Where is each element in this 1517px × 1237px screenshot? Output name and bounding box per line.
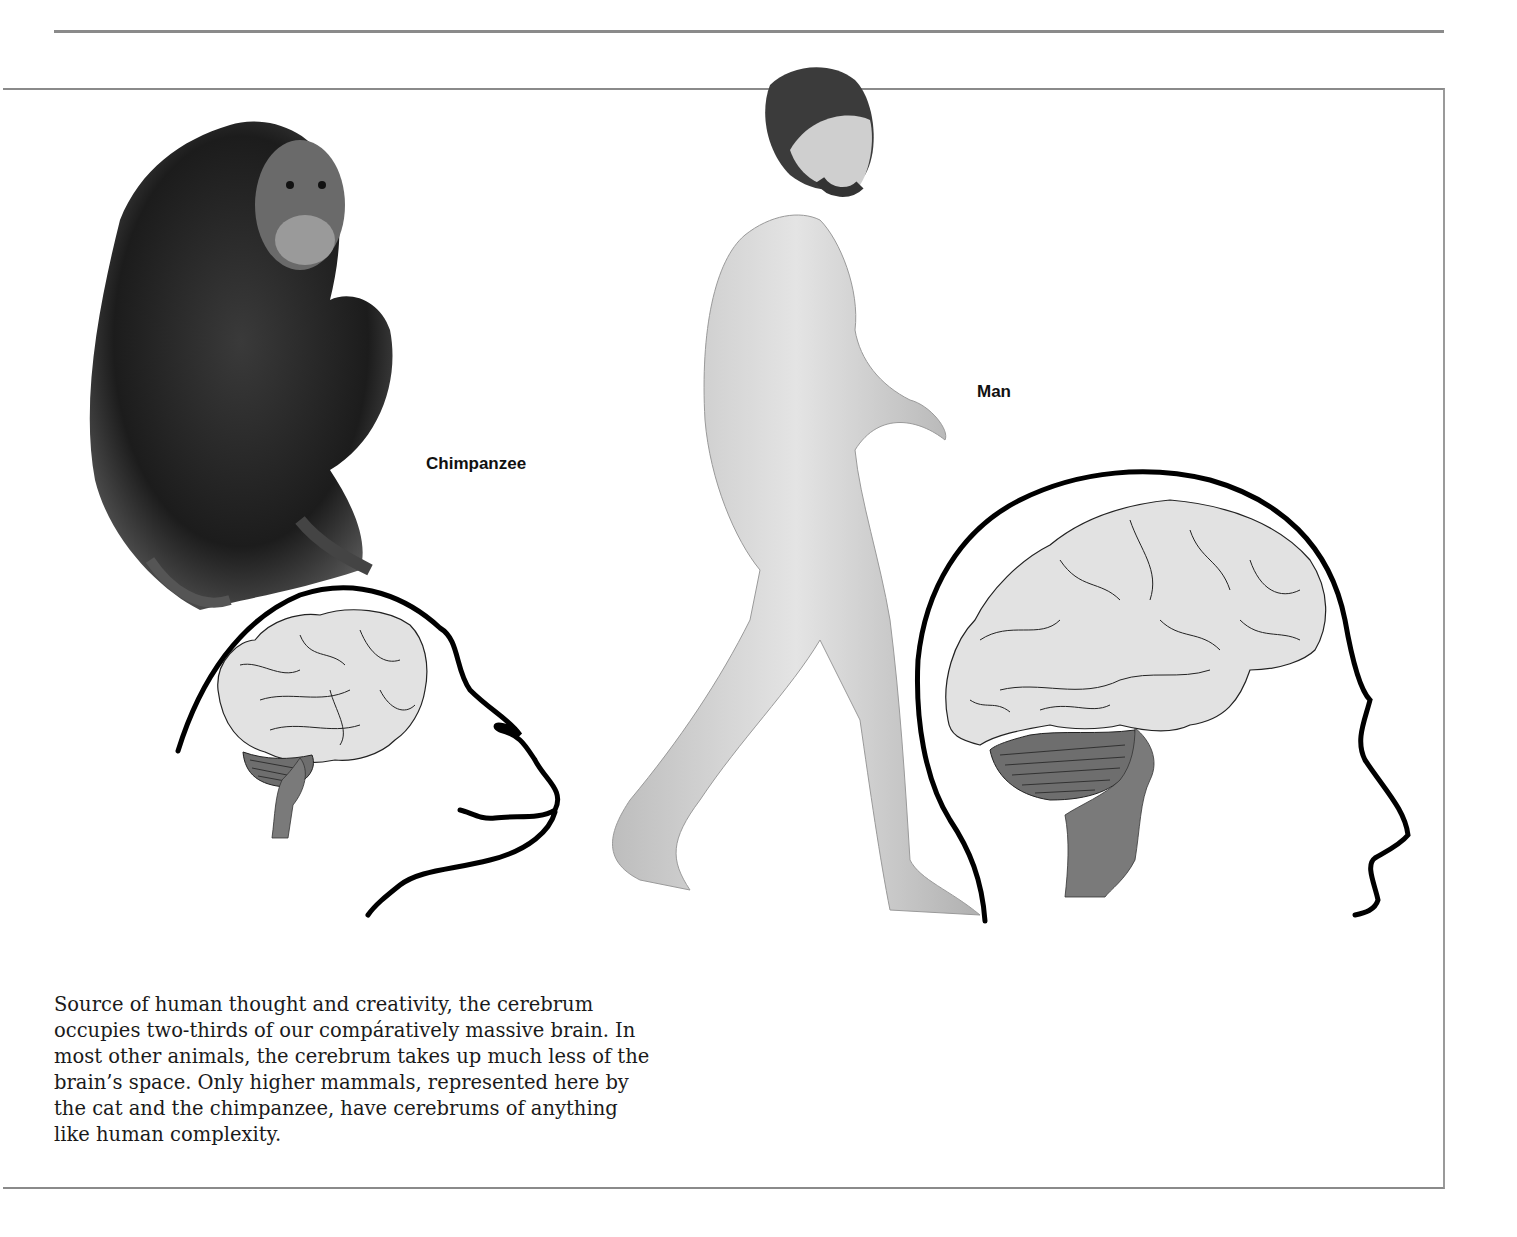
chimpanzee-brain-diagram [178,588,558,915]
caption-line: like human complexity. [54,1122,694,1148]
caption-line: the cat and the chimpanzee, have cerebru… [54,1096,694,1122]
caption-line: brain’s space. Only higher mammals, repr… [54,1070,694,1096]
man-label: Man [977,382,1011,402]
man-illustration [613,67,981,915]
human-brain-diagram [917,472,1408,921]
caption-line: most other animals, the cerebrum takes u… [54,1044,694,1070]
chimpanzee-label: Chimpanzee [426,454,526,474]
caption-line: occupies two-thirds of our compárativel… [54,1018,694,1044]
figure-caption: Source of human thought and creativity, … [54,992,694,1148]
caption-line: Source of human thought and creativity, … [54,992,694,1018]
chimpanzee-illustration [90,121,393,610]
